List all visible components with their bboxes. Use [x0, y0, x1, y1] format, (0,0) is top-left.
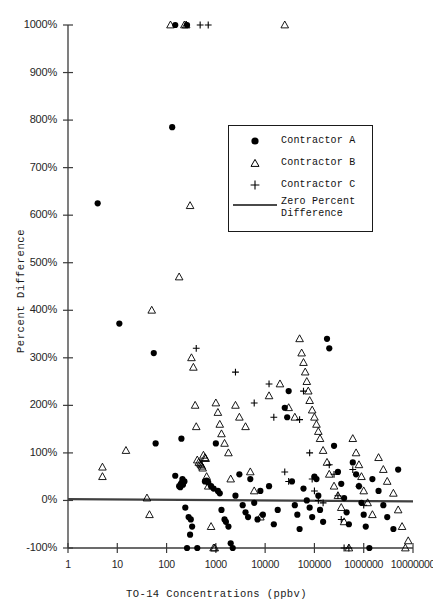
data-point — [384, 514, 390, 520]
data-point — [304, 387, 312, 394]
data-point — [324, 336, 330, 342]
data-point — [213, 440, 219, 446]
data-point — [350, 459, 356, 465]
data-point — [254, 516, 260, 522]
data-point — [122, 447, 130, 454]
data-point — [292, 502, 298, 508]
data-point — [275, 507, 281, 513]
x-tick-label: 1000 — [193, 558, 239, 570]
data-point — [296, 335, 304, 342]
y-tick-label: 500% — [0, 256, 57, 268]
data-point — [153, 440, 159, 446]
data-point — [398, 523, 406, 530]
data-point — [242, 423, 250, 430]
data-point — [251, 400, 258, 407]
data-point — [352, 449, 360, 456]
data-point — [247, 468, 255, 475]
legend-label-zero-line-2: Difference — [281, 208, 343, 219]
line-swatch-icon — [229, 196, 281, 210]
data-point — [326, 345, 332, 351]
data-point — [99, 473, 107, 480]
data-point — [316, 435, 324, 442]
data-point — [313, 420, 321, 427]
legend-item-contractor-b: Contractor B — [229, 152, 374, 173]
data-point — [251, 500, 257, 506]
data-point — [184, 545, 190, 551]
data-point — [191, 401, 199, 408]
data-point — [182, 504, 188, 510]
data-point — [236, 413, 244, 420]
data-point — [349, 435, 357, 442]
legend-item-contractor-a: Contractor A — [229, 130, 374, 151]
data-point — [212, 399, 220, 406]
data-point — [192, 423, 200, 430]
y-tick-label: 600% — [0, 208, 57, 220]
data-point — [338, 481, 344, 487]
legend-label-contractor-b: Contractor B — [281, 157, 355, 169]
data-point — [270, 414, 277, 421]
series-2 — [99, 21, 412, 551]
data-point — [190, 363, 198, 370]
data-point — [245, 514, 251, 520]
data-point — [300, 359, 308, 366]
data-point — [216, 420, 224, 427]
data-point — [232, 369, 239, 376]
data-point — [250, 487, 258, 494]
data-point — [335, 492, 342, 499]
x-axis-title: TO-14 Concentrations (ppbv) — [0, 588, 433, 600]
data-series-group — [95, 21, 412, 551]
data-point — [326, 461, 333, 468]
data-point — [298, 349, 306, 356]
data-point — [330, 482, 338, 489]
data-point — [247, 476, 253, 482]
data-point — [265, 392, 273, 399]
data-point — [306, 397, 314, 404]
data-point — [353, 471, 359, 477]
data-point — [227, 475, 235, 482]
data-point — [146, 511, 154, 518]
data-point — [404, 537, 412, 544]
x-tick-label: 10 — [94, 558, 140, 570]
data-point — [363, 524, 369, 530]
data-point — [218, 507, 224, 513]
data-point — [178, 436, 184, 442]
data-point — [338, 516, 345, 523]
data-point — [281, 21, 289, 28]
data-point — [311, 413, 319, 420]
scatter-chart: 1000%900%800%700%600%500%400%300%200%100… — [0, 0, 433, 613]
data-point — [294, 512, 300, 518]
data-point — [284, 414, 290, 420]
legend-label-zero-line-1: Zero Percent — [281, 196, 355, 207]
data-point — [383, 477, 391, 484]
data-point — [375, 454, 383, 461]
data-point — [217, 490, 223, 496]
data-point — [148, 306, 156, 313]
x-tick-label: 100 — [144, 558, 190, 570]
data-point — [221, 439, 229, 446]
data-point — [95, 200, 101, 206]
data-point — [319, 447, 327, 454]
data-point — [380, 502, 386, 508]
x-tick-label: 10000 — [242, 558, 288, 570]
y-tick-label: 300% — [0, 351, 57, 363]
data-point — [317, 507, 323, 513]
data-point — [236, 471, 242, 477]
plus-icon — [229, 179, 281, 191]
data-point — [257, 488, 263, 494]
data-point — [331, 443, 337, 449]
data-point — [188, 354, 196, 361]
data-point — [325, 470, 333, 477]
x-tick-label: 10000000 — [390, 558, 433, 571]
data-point — [175, 273, 183, 280]
data-point — [394, 506, 402, 513]
legend-label-contractor-c: Contractor C — [281, 179, 355, 191]
legend-label-zero-line: Zero Percent Difference — [281, 196, 355, 220]
data-point — [281, 469, 288, 476]
data-point — [369, 476, 375, 482]
y-tick-label: 400% — [0, 303, 57, 315]
data-point — [355, 461, 363, 468]
data-point — [300, 388, 307, 395]
y-tick-label: 0% — [0, 493, 57, 505]
data-point — [271, 521, 277, 527]
data-point — [308, 406, 316, 413]
